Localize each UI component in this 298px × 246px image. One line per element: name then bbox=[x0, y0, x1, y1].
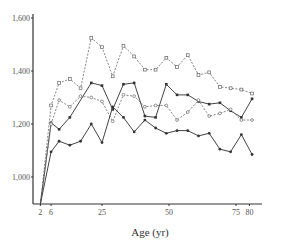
x-tick-label: 50 bbox=[165, 208, 173, 217]
data-point-marker bbox=[240, 119, 243, 122]
data-point-marker bbox=[251, 92, 254, 95]
data-point-marker bbox=[197, 99, 200, 102]
data-point-marker bbox=[197, 74, 200, 77]
data-point-marker bbox=[154, 104, 157, 107]
data-point-marker bbox=[154, 127, 157, 130]
y-tick-label: 1,000 bbox=[12, 173, 30, 182]
data-point-marker bbox=[122, 93, 125, 96]
data-point-marker bbox=[58, 140, 61, 143]
x-tick-label: 75 bbox=[232, 208, 240, 217]
data-point-marker bbox=[229, 108, 232, 111]
data-point-marker bbox=[90, 96, 93, 99]
data-point-marker bbox=[165, 56, 168, 59]
data-point-marker bbox=[58, 99, 61, 102]
data-point-marker bbox=[229, 87, 232, 90]
data-point-marker bbox=[133, 82, 136, 85]
y-tick-label: 1,200 bbox=[12, 120, 30, 129]
data-point-marker bbox=[79, 87, 82, 90]
data-point-marker bbox=[90, 123, 93, 126]
data-point-marker bbox=[219, 102, 222, 105]
series-top-dashed bbox=[40, 36, 253, 204]
data-point-marker bbox=[197, 135, 200, 138]
data-point-marker bbox=[186, 129, 189, 132]
data-point-marker bbox=[50, 150, 53, 153]
x-tick-label: 80 bbox=[245, 208, 253, 217]
data-point-marker bbox=[208, 132, 211, 135]
data-point-marker bbox=[58, 128, 61, 131]
data-point-marker bbox=[101, 100, 104, 103]
data-point-marker bbox=[50, 123, 53, 126]
data-point-marker bbox=[58, 82, 61, 85]
data-point-marker bbox=[68, 105, 71, 108]
data-point-marker bbox=[251, 153, 254, 156]
data-point-marker bbox=[111, 120, 114, 123]
data-point-marker bbox=[165, 132, 168, 135]
data-point-marker bbox=[229, 150, 232, 153]
data-point-marker bbox=[154, 116, 157, 119]
data-point-marker bbox=[240, 133, 243, 136]
data-point-marker bbox=[176, 129, 179, 132]
x-tick-label: 2 bbox=[38, 208, 42, 217]
data-point-marker bbox=[186, 54, 189, 57]
data-point-marker bbox=[219, 112, 222, 115]
data-point-marker bbox=[133, 95, 136, 98]
data-point-marker bbox=[111, 75, 114, 78]
data-point-marker bbox=[251, 119, 254, 122]
data-point-marker bbox=[176, 66, 179, 69]
line-chart: 1,0001,2001,4001,600 2625507580 Age (yr) bbox=[0, 0, 298, 246]
data-point-marker bbox=[122, 83, 125, 86]
data-point-marker bbox=[79, 140, 82, 143]
y-tick-label: 1,600 bbox=[12, 14, 30, 23]
data-point-marker bbox=[133, 55, 136, 58]
x-tick-label: 6 bbox=[49, 208, 53, 217]
series-bottom-solid bbox=[40, 105, 253, 204]
series-layer bbox=[40, 36, 253, 204]
data-point-marker bbox=[122, 44, 125, 47]
data-point-marker bbox=[208, 115, 211, 118]
data-point-marker bbox=[186, 111, 189, 114]
data-point-marker bbox=[101, 84, 104, 87]
data-point-marker bbox=[251, 98, 254, 101]
y-tick-label: 1,400 bbox=[12, 67, 30, 76]
data-point-marker bbox=[240, 88, 243, 91]
data-point-marker bbox=[50, 104, 53, 107]
data-point-marker bbox=[101, 141, 104, 144]
x-axis: 2625507580 bbox=[33, 204, 262, 217]
data-point-marker bbox=[144, 115, 147, 118]
data-point-marker bbox=[208, 103, 211, 106]
data-point-marker bbox=[208, 71, 211, 74]
series-lower-dashed bbox=[40, 93, 253, 204]
data-point-marker bbox=[143, 105, 146, 108]
x-tick-label: 25 bbox=[98, 208, 106, 217]
series-upper-solid-line bbox=[40, 83, 252, 204]
data-point-marker bbox=[165, 83, 168, 86]
data-point-marker bbox=[111, 105, 114, 108]
data-point-marker bbox=[143, 119, 146, 122]
data-point-marker bbox=[90, 82, 93, 85]
data-point-marker bbox=[219, 148, 222, 151]
data-point-marker bbox=[101, 46, 104, 49]
data-point-marker bbox=[90, 36, 93, 39]
data-point-marker bbox=[176, 119, 179, 122]
data-point-marker bbox=[68, 144, 71, 147]
series-upper-solid bbox=[40, 82, 253, 204]
data-point-marker bbox=[133, 131, 136, 134]
data-point-marker bbox=[79, 95, 82, 98]
x-axis-title: Age (yr) bbox=[131, 226, 169, 239]
data-point-marker bbox=[176, 94, 179, 97]
y-axis: 1,0001,2001,4001,600 bbox=[12, 14, 33, 204]
data-point-marker bbox=[186, 94, 189, 97]
data-point-marker bbox=[165, 104, 168, 107]
data-point-marker bbox=[68, 78, 71, 81]
data-point-marker bbox=[122, 116, 125, 119]
data-point-marker bbox=[143, 68, 146, 71]
series-bottom-solid-line bbox=[40, 107, 252, 204]
data-point-marker bbox=[69, 116, 72, 119]
data-point-marker bbox=[219, 86, 222, 89]
data-point-marker bbox=[154, 68, 157, 71]
